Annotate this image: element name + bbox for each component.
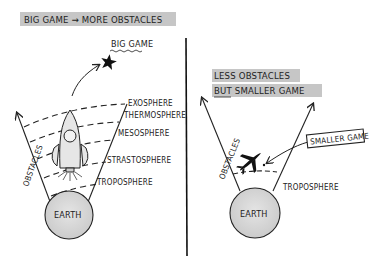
layer-label-thermosphere: THERMOSPHERE [123, 111, 186, 120]
left-obstacles-axis-label: OBSTACLES [21, 143, 44, 187]
right-banner-line2: BUT SMALLER GAME [214, 85, 305, 96]
earth-right-label: EARTH [240, 209, 268, 219]
right-panel: LESS OBSTACLES BUT SMALLER GAME SMALLER … [202, 69, 370, 238]
layer-label-troposphere: TROPOSPHERE [96, 178, 153, 187]
left-panel: BIG GAME → MORE OBSTACLES BIG GAME [17, 12, 186, 239]
layer-label-exosphere: EXOSPHERE [128, 99, 173, 108]
star-icon [99, 53, 118, 71]
airplane-dot [263, 164, 265, 166]
rocket-icon [52, 110, 88, 181]
right-layer-label-troposphere: TROPOSPHERE [282, 183, 339, 192]
wavy-underline [110, 50, 142, 52]
illustration: BIG GAME → MORE OBSTACLES BIG GAME [0, 0, 380, 268]
right-obstacles-axis-label: OBSTACLES [218, 137, 243, 181]
right-banner-line1: LESS OBSTACLES [214, 70, 290, 81]
earth-left-label: EARTH [54, 210, 82, 220]
layer-label-stratosphere: STRASTOSPHERE [107, 156, 171, 165]
panel-divider [186, 38, 187, 256]
trajectory-arrow [72, 65, 99, 96]
big-game-label: BIG GAME [111, 39, 153, 49]
left-banner: BIG GAME → MORE OBSTACLES [24, 14, 162, 25]
layer-label-mesosphere: MESOSPHERE [118, 129, 170, 138]
